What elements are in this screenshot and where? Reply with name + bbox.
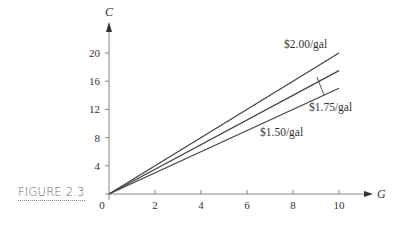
y-tick-label: 8: [95, 132, 101, 144]
x-tick-label: 4: [198, 199, 204, 211]
series-line-1: [109, 71, 339, 194]
x-tick-label: 6: [244, 199, 250, 211]
y-axis-arrow-icon: [106, 22, 112, 32]
y-tick-label: 4: [95, 160, 101, 172]
x-tick-label: 8: [290, 199, 296, 211]
x-tick-label: 10: [334, 199, 346, 211]
series-label-2-00: $2.00/gal: [284, 38, 327, 51]
series-line-2: [109, 88, 339, 194]
y-tick-label: 16: [89, 75, 101, 87]
x-tick-label: 2: [152, 199, 158, 211]
line-chart: CG481216200246810$2.00/gal$1.75/gal$1.50…: [0, 0, 395, 226]
y-tick-label: 20: [89, 47, 101, 59]
series-label-1-50: $1.50/gal: [260, 126, 303, 139]
y-axis-label: C: [105, 5, 114, 19]
series-line-0: [109, 53, 339, 194]
series-label-1-75: $1.75/gal: [309, 101, 352, 114]
x-tick-label: 0: [99, 199, 105, 211]
y-tick-label: 12: [89, 103, 100, 115]
x-axis-arrow-icon: [364, 191, 373, 197]
x-axis-label: G: [377, 187, 386, 201]
